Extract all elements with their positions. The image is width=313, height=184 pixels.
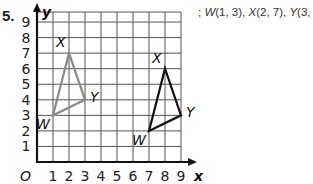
preimage-vertex-label-x: X <box>55 34 66 50</box>
y-tick-labels: 123456789 <box>22 14 31 154</box>
x-tick-label: 1 <box>49 168 58 184</box>
x-tick-label: 3 <box>81 168 90 184</box>
image-vertex-label-w: W <box>132 132 147 148</box>
y-tick-label: 3 <box>22 107 31 123</box>
x-tick-label: 6 <box>129 168 138 184</box>
y-tick-label: 1 <box>22 138 31 154</box>
y-tick-label: 6 <box>22 61 31 77</box>
y-tick-label: 2 <box>22 123 31 139</box>
y-tick-label: 7 <box>22 45 31 61</box>
y-tick-label: 9 <box>22 14 31 30</box>
y-tick-label: 5 <box>22 76 31 92</box>
y-tick-label: 4 <box>22 92 31 108</box>
x-tick-label: 7 <box>145 168 154 184</box>
image-vertex-label-y: Y <box>186 104 196 120</box>
x-tick-label: 5 <box>113 168 122 184</box>
preimage-vertex-label-y: Y <box>90 89 100 105</box>
x-tick-label: 2 <box>65 168 74 184</box>
x-tick-label: 9 <box>177 168 186 184</box>
coordinate-grid: y x O 123456789 123456789 WXYWXY <box>0 0 313 184</box>
origin-label: O <box>20 168 31 184</box>
image-vertex-label-x: X <box>151 50 162 66</box>
x-axis-arrow-icon <box>188 158 197 166</box>
preimage-vertex-label-w: W <box>36 116 51 132</box>
x-tick-label: 8 <box>161 168 170 184</box>
x-tick-labels: 123456789 <box>49 168 186 184</box>
y-tick-label: 8 <box>22 30 31 46</box>
x-axis-label: x <box>193 168 204 184</box>
y-axis-arrow-icon <box>33 3 41 12</box>
y-axis-label: y <box>42 4 52 20</box>
x-tick-label: 4 <box>97 168 106 184</box>
